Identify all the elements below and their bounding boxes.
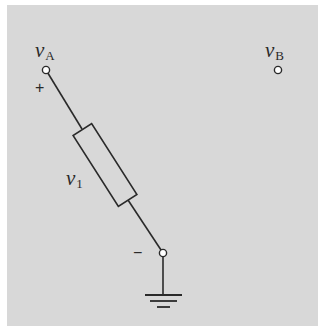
ground-node-terminal <box>159 249 166 256</box>
wire-a-to-resistor <box>46 70 82 129</box>
ground-icon <box>145 295 182 307</box>
plus-sign: + <box>35 80 44 96</box>
node-b-label: vB <box>265 40 284 61</box>
node-b-terminal <box>274 66 281 73</box>
resistor-v1 <box>73 124 137 207</box>
node-a-label-sub: A <box>45 48 54 63</box>
resistor-label: v1 <box>66 168 83 189</box>
resistor-label-sub: 1 <box>76 176 83 191</box>
resistor-label-var: v <box>66 166 75 190</box>
node-b-label-sub: B <box>275 48 284 63</box>
node-a-label-var: v <box>35 38 44 62</box>
node-b-label-var: v <box>265 38 274 62</box>
node-a-terminal <box>42 66 49 73</box>
minus-sign: − <box>133 245 142 261</box>
node-a-label: vA <box>35 40 55 61</box>
